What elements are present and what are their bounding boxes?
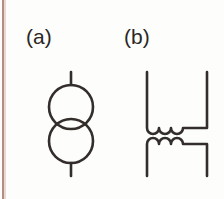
figure-label-b: (b) <box>124 26 150 47</box>
lower-winding-circle <box>49 119 93 163</box>
symbol-transformer-two-circles <box>40 62 102 178</box>
primary-winding-coil <box>147 72 207 134</box>
symbol-transformer-two-coils <box>134 62 220 178</box>
page-scan-edge-shadow <box>4 0 6 199</box>
figure-label-a: (a) <box>26 26 52 47</box>
upper-winding-circle <box>49 85 93 129</box>
figure-page: (a) (b) <box>0 0 224 199</box>
secondary-winding-coil <box>147 138 207 176</box>
